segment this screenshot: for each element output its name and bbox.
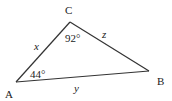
angle-label-a: 44° <box>30 68 45 80</box>
triangle-diagram: C A B x z y 92° 44° <box>0 0 172 101</box>
vertex-label-b: B <box>157 75 164 87</box>
vertex-label-a: A <box>5 88 13 100</box>
angle-label-c: 92° <box>65 32 80 44</box>
side-label-x: x <box>33 40 39 52</box>
side-cb <box>70 22 149 71</box>
vertex-label-c: C <box>65 4 72 16</box>
side-label-y: y <box>73 82 79 94</box>
side-label-z: z <box>101 28 107 40</box>
